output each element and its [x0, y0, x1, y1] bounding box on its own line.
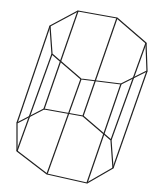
lateral-edge [47, 79, 81, 174]
lateral-edge [44, 11, 78, 109]
lateral-edge [83, 18, 117, 116]
bottom-face [17, 109, 113, 183]
octagonal-prism-diagram [0, 0, 157, 191]
lateral-edge [87, 84, 121, 183]
